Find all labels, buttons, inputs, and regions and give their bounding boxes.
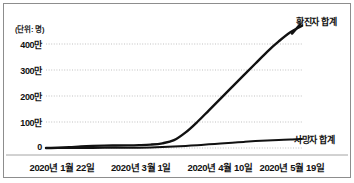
x-tick-label: 2020년 5월 19일 — [247, 160, 337, 174]
series-label-confirmed: 확진자 합계 — [296, 15, 336, 28]
y-tick-label: 300만 — [20, 64, 42, 77]
y-tick-label: 100만 — [20, 116, 42, 129]
series-label-deaths: 사망자 합계 — [294, 133, 334, 146]
y-tick: 300만 — [0, 64, 42, 75]
y-tick: 400만 — [0, 38, 42, 49]
chart-figure: (단위: 명) 0100만200만300만400만 2020년 1월 22일20… — [0, 0, 354, 183]
x-tick-label: 2020년 3월 1일 — [96, 160, 186, 174]
y-tick-label: 400만 — [20, 38, 42, 51]
gridlines — [46, 44, 302, 148]
y-tick-label: 0 — [37, 142, 42, 152]
series-lines — [46, 25, 302, 149]
x-tick-label: 2020년 1월 22일 — [17, 160, 107, 174]
y-tick-label: 200만 — [20, 90, 42, 103]
y-tick: 100만 — [0, 116, 42, 127]
y-tick: 0 — [0, 142, 42, 153]
y-tick: 200만 — [0, 90, 42, 101]
